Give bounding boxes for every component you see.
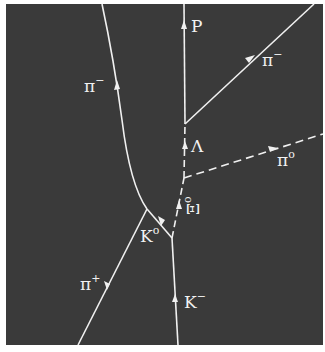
label-lambda: Λ xyxy=(190,136,204,156)
label-proton: P xyxy=(191,16,202,36)
particle-track-diagram: K− Ko Ξo π+ π− πo Λ P π− xyxy=(0,0,325,352)
